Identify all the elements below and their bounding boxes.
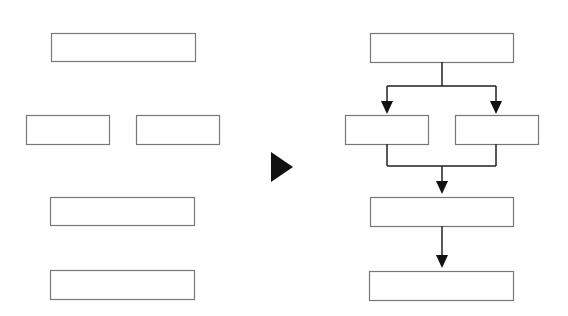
right-box-R3 bbox=[456, 116, 539, 145]
right-box-R5 bbox=[370, 272, 514, 301]
arrowhead-icon-to-R3 bbox=[490, 101, 502, 114]
right-box-R1 bbox=[371, 34, 514, 63]
right-box-R2 bbox=[346, 116, 429, 145]
play-arrow-icon bbox=[271, 152, 293, 182]
diagram-canvas bbox=[0, 0, 568, 316]
left-unconnected-boxes bbox=[27, 34, 220, 300]
arrowhead-icon-to-R4 bbox=[436, 181, 448, 194]
transition-arrow-icon bbox=[271, 152, 293, 182]
left-box-L2 bbox=[27, 116, 110, 145]
left-box-L4 bbox=[51, 198, 195, 226]
connector-split bbox=[387, 62, 496, 102]
left-box-L1 bbox=[52, 34, 196, 62]
arrowhead-icon-to-R5 bbox=[436, 255, 448, 268]
right-connected-flowchart bbox=[346, 34, 539, 301]
left-box-L5 bbox=[51, 271, 195, 300]
arrowhead-icon-to-R2 bbox=[381, 101, 393, 114]
left-box-L3 bbox=[137, 116, 220, 145]
right-box-R4 bbox=[371, 198, 514, 227]
connector-merge bbox=[387, 144, 496, 182]
